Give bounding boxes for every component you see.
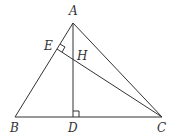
segment-AB <box>15 23 73 117</box>
label-H: H <box>76 49 88 63</box>
right-angle-marker-D <box>73 111 79 117</box>
label-D: D <box>67 121 78 135</box>
label-E: E <box>43 39 53 53</box>
segment-AC <box>73 23 162 117</box>
label-B: B <box>9 121 19 135</box>
right-angle-marker-E <box>60 44 65 52</box>
label-A: A <box>68 4 78 18</box>
geometry-diagram: A B C D E H <box>0 0 177 140</box>
label-C: C <box>157 121 166 135</box>
